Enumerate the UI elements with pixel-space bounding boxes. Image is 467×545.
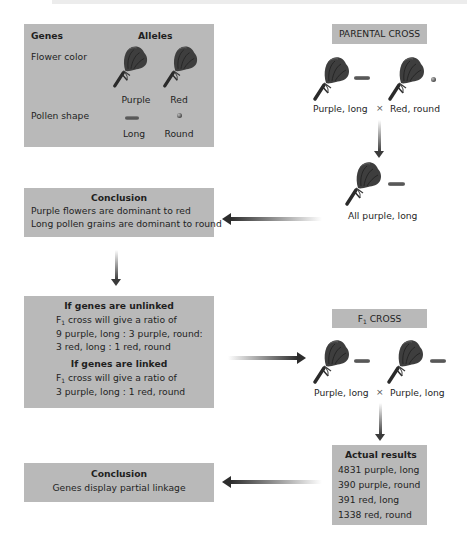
genes-header: Genes [31,30,63,41]
f1-offspring-flower-icon [343,160,383,206]
parental-cross-label-box: PARENTAL CROSS [332,24,427,44]
f1-cross-label-box: F1 CROSS [332,309,427,328]
genes-alleles-box: Genes Alleles Flower color Purple Red Po… [24,24,214,147]
arrow-left-to-conclusion-2 [230,480,322,484]
red-flower-icon [161,44,199,88]
alleles-header: Alleles [138,30,173,41]
conclusion-1-box: Conclusion Purple flowers are dominant t… [24,188,214,237]
f1-parent-1-label: Purple, long [314,387,369,398]
actual-results-title: Actual results [345,449,417,460]
top-edge-band [52,0,467,4]
linked-title: If genes are linked [24,358,214,369]
f1-offspring-long-pollen-icon [388,182,405,186]
cross-symbol-parental: × [376,103,384,113]
unlinked-line-1: F1 cross will give a ratio of [56,314,177,328]
f1-parent-1-long-pollen-icon [354,359,370,363]
actual-results-box: Actual results 4831 purple, long 390 pur… [332,445,427,525]
f1-parent-2-long-pollen-icon [430,359,446,363]
f1-parent-2-flower-icon [385,338,425,384]
conclusion-1-title: Conclusion [24,192,214,203]
linked-line-1: F1 cross will give a ratio of [56,372,177,386]
f1-offspring-label: All purple, long [348,210,417,221]
gene-flower-color: Flower color [31,51,87,62]
unlinked-line-3: 3 red, long : 1 red, round [56,341,171,352]
predictions-box: If genes are unlinked F1 cross will give… [24,296,214,408]
long-pollen-icon [125,116,139,120]
result-row: 1338 red, round [338,509,412,520]
cross-symbol-f1: × [376,387,384,397]
result-row: 390 purple, round [338,479,420,490]
arrow-left-to-conclusion-1 [230,217,322,221]
gene-pollen-shape: Pollen shape [31,110,89,121]
allele-long: Long [116,128,152,139]
arrow-down-parental-to-f1 [378,120,381,152]
conclusion-2-title: Conclusion [24,468,214,479]
allele-round: Round [161,128,197,139]
allele-red: Red [161,94,197,105]
parent-2-round-pollen-icon [431,77,436,82]
f1-parent-2-label: Purple, long [390,387,445,398]
arrow-down-conclusion-to-predictions [115,250,118,280]
arrow-down-f1-to-results [379,403,382,435]
conclusion-2-box: Conclusion Genes display partial linkage [24,463,214,502]
parent-1-flower-icon [311,55,351,101]
parent-1-label: Purple, long [313,103,368,114]
conclusion-1-line-2: Long pollen grains are dominant to round [31,218,222,229]
unlinked-line-2: 9 purple, long : 3 purple, round: [56,328,203,339]
unlinked-title: If genes are unlinked [24,300,214,311]
round-pollen-icon [177,113,182,118]
linked-line-2: 3 purple, long : 1 red, round [56,386,185,397]
conclusion-1-line-1: Purple flowers are dominant to red [31,205,191,216]
parent-2-label: Red, round [390,103,440,114]
f1-cross-label: F1 CROSS [332,313,427,327]
f1-parent-1-flower-icon [311,338,351,384]
result-row: 4831 purple, long [338,464,419,475]
purple-flower-icon [111,44,149,88]
parental-cross-label: PARENTAL CROSS [332,28,427,39]
conclusion-2-line: Genes display partial linkage [24,482,214,493]
parent-2-flower-icon [386,55,426,101]
allele-purple: Purple [116,94,156,105]
result-row: 391 red, long [338,494,399,505]
arrow-right-to-f1-cross [228,356,298,360]
parent-1-long-pollen-icon [354,76,370,80]
